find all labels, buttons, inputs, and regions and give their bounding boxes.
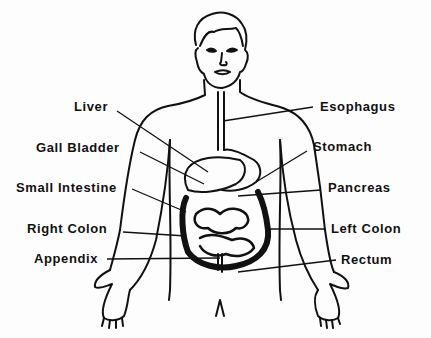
label-liver: Liver (74, 100, 108, 114)
label-gall-bladder: Gall Bladder (36, 141, 120, 155)
body-illustration (0, 0, 431, 338)
hair-line (200, 28, 243, 46)
stomach-outline (222, 149, 260, 190)
digestive-system-diagram: Liver Gall Bladder Small Intestine Right… (0, 0, 431, 338)
label-esophagus: Esophagus (320, 100, 395, 114)
label-left-colon: Left Colon (331, 222, 401, 236)
label-small-intestine: Small Intestine (16, 181, 117, 195)
label-rectum: Rectum (341, 253, 392, 267)
colon (182, 192, 268, 267)
label-appendix: Appendix (34, 252, 98, 266)
label-pancreas: Pancreas (328, 181, 391, 195)
head-outline (195, 12, 248, 88)
label-stomach: Stomach (313, 140, 372, 154)
label-right-colon: Right Colon (27, 222, 107, 236)
